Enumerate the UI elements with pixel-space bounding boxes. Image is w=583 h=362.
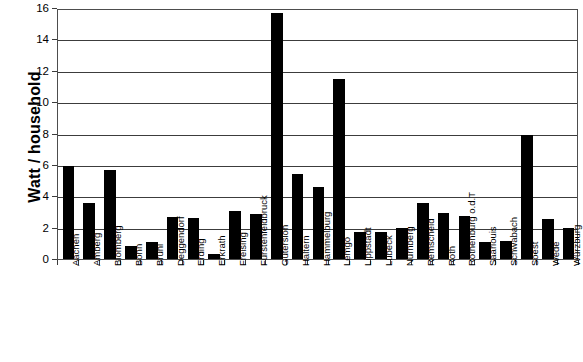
x-tick-label: Blomberg: [113, 225, 123, 266]
bar-slot: [537, 10, 558, 259]
x-tick-label: Erding: [196, 239, 206, 266]
bar-slot: [391, 10, 412, 259]
x-tick-label: Remscheid: [426, 218, 436, 266]
bar: [271, 13, 283, 259]
x-tick-label: Brühl: [155, 244, 165, 266]
bar-chart: Watt / household 0246810121416 AachenAmb…: [0, 0, 583, 362]
bar-slot: [287, 10, 308, 259]
bar-slot: [475, 10, 496, 259]
x-tick-label: Wede: [551, 241, 561, 266]
x-tick-label: Gütersloh: [280, 225, 290, 266]
y-tick-label: 12: [7, 66, 49, 78]
x-tick-label: Schwabach: [509, 217, 519, 266]
x-tick-label: Haltern: [301, 235, 311, 266]
bar-slot: [433, 10, 454, 259]
x-tick-label: Nürnberg: [405, 226, 415, 266]
x-tick-label: Soest: [530, 242, 540, 266]
bar-slot: [558, 10, 579, 259]
y-tick-label: 10: [7, 97, 49, 109]
x-tick-label: Fürstenfeldbruck: [259, 195, 269, 266]
y-tick-label: 6: [7, 160, 49, 172]
bar-slot: [516, 10, 537, 259]
bar-slot: [100, 10, 121, 259]
x-tick-label: Bonn: [134, 244, 144, 266]
bar-slot: [204, 10, 225, 259]
bar-series: [58, 10, 577, 259]
x-tick-label: Lübeck: [384, 235, 394, 266]
bar-slot: [141, 10, 162, 259]
y-tick-label: 4: [7, 191, 49, 203]
x-tick-label: Amberg: [92, 233, 102, 266]
x-axis-labels: AachenAmbergBlombergBonnBrühlDeggendorfE…: [57, 266, 578, 362]
bar-slot: [329, 10, 350, 259]
bar-slot: [79, 10, 100, 259]
x-tick-label: Lippstadt: [363, 227, 373, 266]
x-tick-label: Würzburg: [572, 225, 582, 266]
x-tick-label: Freising: [238, 232, 248, 266]
x-tick-label: Lemgo: [342, 237, 352, 266]
x-tick-label: Rothenburg o.d.T: [467, 192, 477, 266]
bar-slot: [350, 10, 371, 259]
bar-slot: [266, 10, 287, 259]
bar: [333, 79, 345, 259]
x-tick-mark: [57, 260, 58, 265]
bar-slot: [183, 10, 204, 259]
bar-slot: [121, 10, 142, 259]
y-tick-label: 8: [7, 129, 49, 141]
plot-area: [57, 9, 578, 260]
x-tick-label: Hammelburg: [322, 212, 332, 266]
bar-slot: [225, 10, 246, 259]
x-tick-label: Roth: [447, 246, 457, 266]
x-tick-label: Saarlouis: [488, 226, 498, 266]
x-tick-label: Erkrath: [217, 235, 227, 266]
bar-slot: [371, 10, 392, 259]
x-tick-label: Aachen: [71, 234, 81, 266]
bar-slot: [58, 10, 79, 259]
y-tick-label: 14: [7, 34, 49, 46]
y-tick-label: 16: [7, 3, 49, 15]
y-tick-label: 0: [7, 254, 49, 266]
x-tick-label: Deggendorf: [176, 216, 186, 266]
bar: [521, 135, 533, 259]
y-tick-label: 2: [7, 223, 49, 235]
